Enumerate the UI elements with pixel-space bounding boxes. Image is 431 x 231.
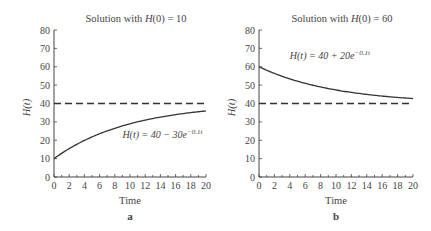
x-tick-label: 10 bbox=[331, 180, 341, 191]
x-axis-label: Time bbox=[119, 195, 141, 206]
x-tick-label: 8 bbox=[318, 180, 323, 191]
y-tick-label: 70 bbox=[245, 43, 255, 54]
x-tick-label: 8 bbox=[112, 180, 117, 191]
y-tick-label: 50 bbox=[40, 80, 50, 91]
x-tick-label: 12 bbox=[140, 180, 150, 191]
panel-label: a bbox=[127, 210, 133, 222]
y-tick-label: 80 bbox=[245, 25, 255, 36]
y-tick-label: 0 bbox=[250, 172, 255, 183]
chart-panel-b: 0102030405060708002468101214161820H(t) =… bbox=[226, 13, 418, 222]
solution-curve bbox=[259, 67, 413, 99]
x-tick-label: 4 bbox=[82, 180, 87, 191]
x-tick-label: 6 bbox=[303, 180, 308, 191]
y-axis-label: H(t) bbox=[21, 98, 33, 117]
chart-panel-a: 0102030405060708002468101214161820H(t) =… bbox=[21, 13, 211, 222]
x-tick-label: 18 bbox=[186, 180, 196, 191]
panel-label: b bbox=[333, 210, 339, 222]
x-tick-label: 14 bbox=[362, 180, 372, 191]
y-tick-label: 70 bbox=[40, 43, 50, 54]
y-tick-label: 80 bbox=[40, 25, 50, 36]
y-tick-label: 10 bbox=[245, 153, 255, 164]
y-tick-label: 60 bbox=[40, 61, 50, 72]
x-tick-label: 0 bbox=[52, 180, 57, 191]
x-tick-label: 12 bbox=[346, 180, 356, 191]
y-axis-label: H(t) bbox=[226, 98, 238, 117]
x-tick-label: 0 bbox=[257, 180, 262, 191]
y-tick-label: 20 bbox=[245, 135, 255, 146]
x-axis-label: Time bbox=[325, 195, 347, 206]
x-tick-label: 2 bbox=[67, 180, 72, 191]
x-tick-label: 14 bbox=[155, 180, 165, 191]
curve-equation-label: H(t) = 40 − 30e−0.1t bbox=[121, 128, 203, 141]
y-tick-label: 30 bbox=[245, 116, 255, 127]
x-tick-label: 18 bbox=[393, 180, 403, 191]
y-tick-label: 30 bbox=[40, 116, 50, 127]
x-tick-label: 4 bbox=[287, 180, 292, 191]
y-tick-label: 0 bbox=[45, 172, 50, 183]
x-tick-label: 6 bbox=[97, 180, 102, 191]
x-tick-label: 20 bbox=[201, 180, 211, 191]
y-tick-label: 20 bbox=[40, 135, 50, 146]
y-tick-label: 60 bbox=[245, 61, 255, 72]
y-tick-label: 10 bbox=[40, 153, 50, 164]
y-tick-label: 50 bbox=[245, 80, 255, 91]
curve-equation-label: H(t) = 40 + 20e−0.1t bbox=[289, 49, 371, 62]
figure: 0102030405060708002468101214161820H(t) =… bbox=[0, 0, 431, 231]
x-tick-label: 20 bbox=[408, 180, 418, 191]
y-tick-label: 40 bbox=[245, 98, 255, 109]
x-tick-label: 2 bbox=[272, 180, 277, 191]
x-tick-label: 16 bbox=[377, 180, 387, 191]
chart-title: Solution with H(0) = 10 bbox=[85, 13, 186, 25]
y-tick-label: 40 bbox=[40, 98, 50, 109]
x-tick-label: 10 bbox=[125, 180, 135, 191]
chart-title: Solution with H(0) = 60 bbox=[291, 13, 392, 25]
x-tick-label: 16 bbox=[171, 180, 181, 191]
